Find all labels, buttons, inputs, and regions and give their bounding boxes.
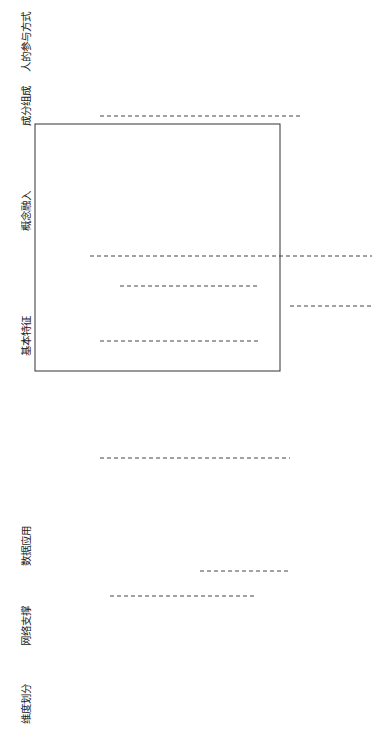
connector-lines [0,0,372,746]
header-composition: 成分组成 [20,86,32,126]
header-human: 人的参与方式 [20,12,32,72]
header-concepts: 概念融入 [20,191,32,231]
header-data-app: 数据应用 [20,526,32,566]
header-dimension: 维度划分 [20,684,32,724]
header-features: 基本特征 [20,316,32,356]
header-network: 网络支撑 [20,606,32,646]
diagram-canvas: 维度划分 网络支撑 数据应用 基本特征 概念融入 成分组成 人的参与方式 [0,0,372,746]
